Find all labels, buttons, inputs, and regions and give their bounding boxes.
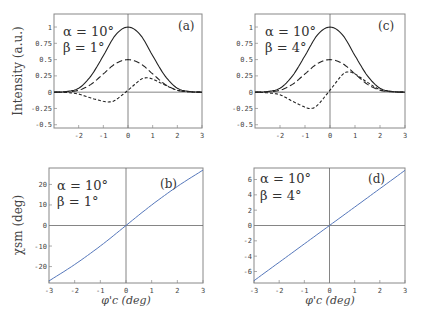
y-tick-label: -2 <box>244 237 252 245</box>
x-tick-label: 3 <box>403 287 407 295</box>
panel-a-alpha: α = 10° <box>63 24 114 39</box>
x-tick-label: 1 <box>151 132 155 140</box>
x-tick-label: 2 <box>175 287 179 295</box>
panel-c-beta: β = 4° <box>265 40 306 55</box>
y-tick-label: 0.75 <box>236 40 253 48</box>
panel-b-label: (b) <box>160 177 177 191</box>
y-tick-label: 0 <box>43 222 47 230</box>
x-tick-label: 3 <box>201 287 205 295</box>
y-tick-label: -0.25 <box>232 105 253 113</box>
x-tick-label: 0 <box>126 132 130 140</box>
x-tick-label: -3 <box>45 287 53 295</box>
x-tick-label: -1 <box>301 132 309 140</box>
x-tick-label: 2 <box>378 287 382 295</box>
y-tick-label: 2 <box>248 207 252 215</box>
y-tick-label: -0.25 <box>31 105 52 113</box>
panel-b-alpha: α = 10° <box>57 178 108 193</box>
y-tick-label: 6 <box>248 176 252 184</box>
x-tick-label: 3 <box>403 132 407 140</box>
panel-c-alpha: α = 10° <box>265 24 316 39</box>
y-tick-label: 0 <box>248 222 252 230</box>
panel-c-label: (c) <box>378 19 394 33</box>
figure: -2-1012310.750.50.250-0.25-0.5 -2-101231… <box>0 0 421 324</box>
y-tick-label: 0.25 <box>236 72 253 80</box>
x-tick-label: -2 <box>276 132 284 140</box>
y-tick-label: 0 <box>48 89 52 97</box>
panel-d-alpha: α = 10° <box>260 171 311 186</box>
panel-d-beta: β = 4° <box>260 188 301 203</box>
x-tick-label: -2 <box>74 132 82 140</box>
panel-d-xlabel: φ'c (deg) <box>305 294 355 307</box>
y-tick-label: -20 <box>34 263 47 271</box>
y-tick-label: -4 <box>244 253 252 261</box>
panel-a-ylabel: Intensity (a.u.) <box>11 26 25 115</box>
x-tick-label: -2 <box>275 287 283 295</box>
y-tick-label: 0.25 <box>35 72 52 80</box>
y-tick-label: 0.5 <box>39 56 52 64</box>
panel-d-label: (d) <box>368 172 385 186</box>
y-tick-label: 4 <box>248 191 252 199</box>
panel-b-xlabel: φ'c (deg) <box>101 294 151 307</box>
y-tick-label: 1 <box>48 24 52 32</box>
x-tick-label: -1 <box>99 132 107 140</box>
y-tick-label: 1 <box>249 24 253 32</box>
panel-b-ylabel: χsm (deg) <box>11 195 25 255</box>
x-tick-label: -3 <box>250 287 258 295</box>
y-tick-label: -10 <box>34 243 47 251</box>
x-tick-label: 2 <box>175 132 179 140</box>
y-tick-label: 20 <box>39 181 47 189</box>
y-tick-label: 0.75 <box>35 40 52 48</box>
x-tick-label: 3 <box>200 132 204 140</box>
y-tick-label: 0.5 <box>240 56 253 64</box>
panel-a-beta: β = 1° <box>63 40 104 55</box>
y-tick-label: -6 <box>244 268 252 276</box>
x-tick-label: 1 <box>353 132 357 140</box>
x-tick-label: 0 <box>328 132 332 140</box>
panel-a-label: (a) <box>178 19 195 33</box>
y-tick-label: -0.5 <box>35 121 52 129</box>
y-tick-label: -0.5 <box>236 121 253 129</box>
x-tick-label: 2 <box>378 132 382 140</box>
x-tick-label: -2 <box>70 287 78 295</box>
panel-b-beta: β = 1° <box>57 194 98 209</box>
y-tick-label: 0 <box>249 89 253 97</box>
y-tick-label: 10 <box>39 201 47 209</box>
